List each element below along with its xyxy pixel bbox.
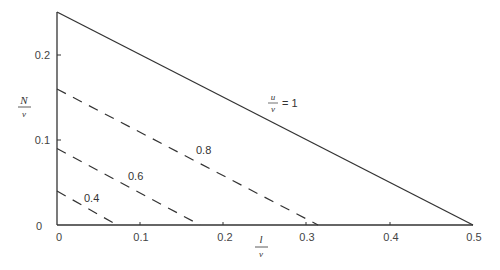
x-axis-label: l v [255,233,268,259]
label-0.4: 0.4 [84,192,99,204]
line-0.8 [57,89,318,225]
line-0.6 [57,149,200,226]
y-tick-label: 0.2 [35,49,50,61]
svg-text:v: v [259,249,263,259]
svg-text:v: v [271,104,275,114]
line-u-v-1 [57,12,473,225]
y-tick-label: 0.1 [35,134,50,146]
svg-text:u: u [271,92,276,102]
x-tick-label: 0.4 [383,231,398,243]
svg-text:= 1: = 1 [282,97,298,109]
y-tick-label: 0 [36,220,42,232]
chart: 0 0.1 0.2 0 0.1 0.2 0.3 0.4 0.5 N v l v … [0,0,500,270]
y-axis-label: N v [18,94,31,119]
x-tick-label: 0.5 [466,231,481,243]
svg-text:N: N [19,94,28,106]
label-0.8: 0.8 [196,144,211,156]
x-tick-label: 0 [56,231,62,243]
label-0.6: 0.6 [128,170,143,182]
svg-text:v: v [22,109,26,119]
x-tick-label: 0.1 [133,231,148,243]
x-tick-label: 0.2 [217,231,232,243]
label-u-v-1: u v = 1 [268,92,298,114]
svg-text:l: l [259,233,262,245]
x-tick-label: 0.3 [299,231,314,243]
